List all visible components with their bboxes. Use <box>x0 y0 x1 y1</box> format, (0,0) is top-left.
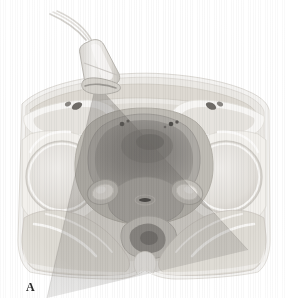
figure-panel: A <box>0 0 287 298</box>
ultrasound-transducer-probe <box>50 11 121 94</box>
vessel-dot-right-2 <box>175 120 178 123</box>
figure-panel-label: A <box>26 281 35 293</box>
vessel-dot-right-3 <box>164 126 167 129</box>
vessel-dot-right-1 <box>169 122 174 127</box>
probe-cable-strand-1 <box>50 14 86 40</box>
anatomic-cross-section-illustration <box>0 0 287 298</box>
